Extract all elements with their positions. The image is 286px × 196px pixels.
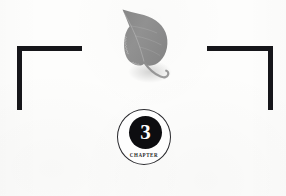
corner-bracket-left [17, 46, 82, 110]
chapter-number: 3 [129, 116, 162, 149]
corner-bracket-left-horizontal-rule [17, 46, 82, 51]
corner-bracket-right-horizontal-rule [207, 46, 273, 51]
chapter-badge: 3 CHAPTER [116, 108, 174, 168]
chapter-label: CHAPTER [116, 152, 172, 158]
corner-bracket-right [207, 46, 273, 110]
corner-bracket-left-vertical-rule [17, 46, 22, 110]
chapter-opener-page: 3 CHAPTER [0, 0, 286, 196]
leaf-icon [112, 6, 176, 88]
corner-bracket-right-vertical-rule [268, 46, 273, 110]
